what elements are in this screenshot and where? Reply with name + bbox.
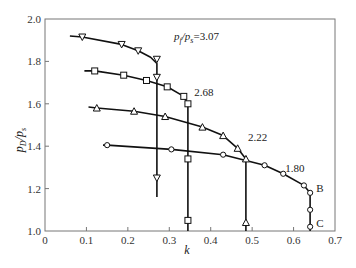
circle-marker bbox=[221, 152, 226, 157]
x-tick-label: 0.7 bbox=[328, 234, 342, 246]
axes: 00.10.20.30.40.50.60.71.01.21.41.61.82.0 bbox=[27, 13, 342, 246]
y-tick-label: 1.8 bbox=[27, 55, 41, 67]
square-marker bbox=[185, 217, 191, 223]
circle-marker bbox=[262, 163, 267, 168]
circle-marker bbox=[105, 143, 110, 148]
triangle-down-marker bbox=[153, 175, 160, 182]
circle-marker bbox=[308, 207, 313, 212]
square-marker bbox=[164, 84, 170, 90]
annotation-b: B bbox=[316, 182, 323, 194]
x-tick-label: 0.2 bbox=[121, 234, 135, 246]
y-tick-label: 1.4 bbox=[27, 140, 41, 152]
annotation-c: C bbox=[316, 217, 323, 229]
triangle-down-marker bbox=[135, 48, 142, 55]
triangle-up-marker bbox=[242, 219, 249, 226]
square-marker bbox=[121, 72, 127, 78]
y-tick-label: 1.2 bbox=[27, 183, 41, 195]
circle-marker bbox=[301, 183, 306, 188]
curve-3.07 bbox=[70, 36, 157, 197]
x-tick-label: 0.1 bbox=[80, 234, 94, 246]
chart: 00.10.20.30.40.50.60.71.01.21.41.61.82.0… bbox=[0, 0, 356, 268]
markers bbox=[79, 34, 313, 229]
annotation-2-68: 2.68 bbox=[194, 86, 214, 98]
curve-2.22 bbox=[89, 107, 246, 231]
y-tick-label: 1.0 bbox=[27, 225, 41, 237]
circle-marker bbox=[308, 224, 313, 229]
circle-marker bbox=[169, 147, 174, 152]
x-axis-label: k bbox=[184, 243, 190, 257]
x-tick-label: 0.5 bbox=[245, 234, 259, 246]
curve-label-3-07: pf/ps=3.07 bbox=[173, 30, 219, 45]
square-marker bbox=[181, 93, 187, 99]
curves bbox=[70, 36, 310, 231]
y-axis-label: pD/ps bbox=[12, 128, 28, 153]
x-tick-label: 0.4 bbox=[204, 234, 218, 246]
square-marker bbox=[185, 101, 191, 107]
y-tick-label: 2.0 bbox=[27, 13, 41, 25]
x-tick-label: 0.3 bbox=[162, 234, 176, 246]
annotation-2-22: 2.22 bbox=[248, 131, 267, 143]
square-marker bbox=[185, 156, 191, 162]
x-tick-label: 0 bbox=[42, 234, 48, 246]
curve-1.80 bbox=[103, 145, 310, 231]
y-tick-label: 1.6 bbox=[27, 98, 41, 110]
annotation-1-80: 1.80 bbox=[285, 162, 305, 174]
plot-frame bbox=[45, 19, 335, 231]
square-marker bbox=[144, 77, 150, 83]
x-tick-label: 0.6 bbox=[287, 234, 301, 246]
triangle-down-marker bbox=[153, 74, 160, 81]
annotations: 2.682.221.80BC bbox=[194, 86, 324, 228]
square-marker bbox=[92, 68, 98, 74]
circle-marker bbox=[308, 190, 313, 195]
